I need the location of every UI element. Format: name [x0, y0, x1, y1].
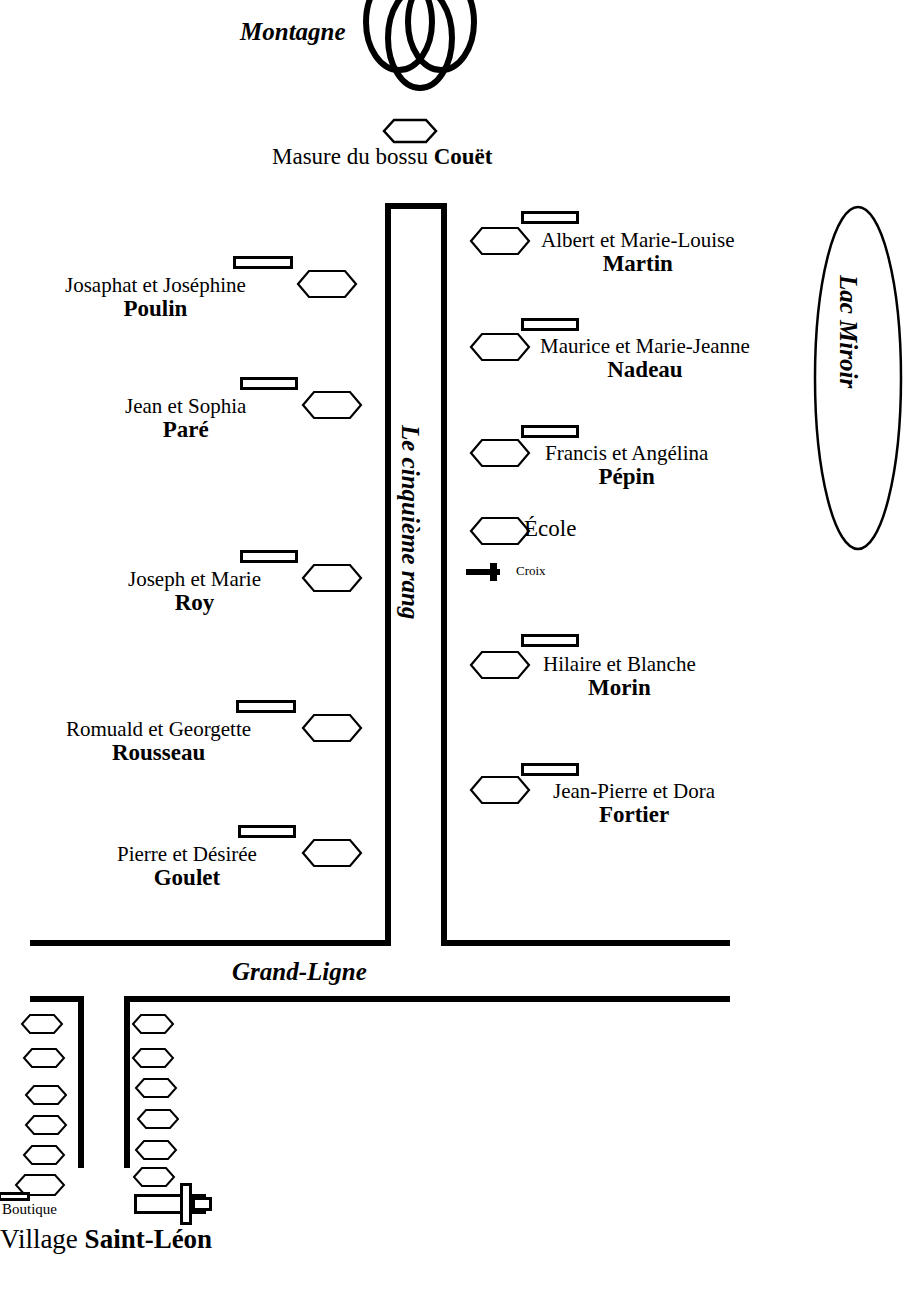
farm-given-pare: Jean et Sophia — [125, 395, 246, 418]
village-house-icon-w3 — [24, 1084, 68, 1106]
grand-ligne-label: Grand-Ligne — [232, 958, 367, 986]
rang-road-label: Le cinquième rang — [396, 425, 424, 619]
croix-label: Croix — [516, 563, 546, 579]
montagne-label: Montagne — [240, 18, 346, 46]
village-prefix: Village — [0, 1224, 85, 1254]
eglise-apse-icon — [192, 1197, 212, 1211]
farm-family-roy: Roy — [128, 591, 261, 616]
farm-given-rousseau: Romuald et Georgette — [66, 718, 251, 741]
croix-icon — [466, 561, 510, 583]
boutique-label: Boutique — [2, 1201, 57, 1218]
farm-family-pare: Paré — [125, 418, 246, 443]
farm-house-icon-pare — [301, 390, 363, 420]
farm-given-fortier: Jean-Pierre et Dora — [553, 780, 715, 803]
farm-given-nadeau: Maurice et Marie-Jeanne — [540, 335, 750, 358]
farm-given-poulin: Josaphat et Joséphine — [65, 274, 246, 297]
boutique-icon — [0, 1192, 30, 1201]
farm-label-pepin: Francis et Angélina Pépin — [545, 442, 708, 490]
grand-ligne-lower-rail-west-stub — [30, 996, 84, 1002]
village-house-icon-w1 — [20, 1013, 64, 1035]
farm-label-pare: Jean et Sophia Paré — [125, 395, 246, 443]
farm-label-fortier: Jean-Pierre et Dora Fortier — [553, 780, 715, 828]
eglise-tower-icon — [180, 1183, 192, 1225]
masure-family: Couët — [434, 144, 493, 169]
ecole-house-icon — [469, 516, 531, 546]
village-street-west-rail — [78, 996, 84, 1168]
masure-label: Masure du bossu Couët — [272, 144, 492, 170]
rang-road-left-rail — [385, 203, 391, 945]
farm-given-roy: Joseph et Marie — [128, 568, 261, 591]
village-house-icon-e4 — [136, 1108, 180, 1130]
rang-road-cap — [385, 203, 447, 209]
farm-house-icon-rousseau — [301, 713, 363, 743]
farm-label-poulin: Josaphat et Joséphine Poulin — [65, 274, 246, 322]
farm-family-nadeau: Nadeau — [540, 358, 750, 383]
farm-given-pepin: Francis et Angélina — [545, 442, 708, 465]
farm-house-icon-roy — [301, 563, 363, 593]
farm-given-goulet: Pierre et Désirée — [117, 843, 257, 866]
village-house-icon-e6 — [132, 1166, 176, 1188]
village-house-icon-e5 — [134, 1139, 178, 1161]
farm-house-icon-fortier — [469, 775, 531, 805]
farm-barn-icon-nadeau — [521, 318, 579, 331]
farm-family-fortier: Fortier — [553, 803, 715, 828]
ecole-label: École — [524, 516, 576, 542]
farm-family-poulin: Poulin — [65, 297, 246, 322]
village-house-icon-w4 — [24, 1114, 68, 1136]
masure-prefix: Masure du bossu — [272, 144, 434, 169]
farm-barn-icon-morin — [521, 634, 579, 647]
village-name: Saint-Léon — [85, 1224, 213, 1254]
farm-label-goulet: Pierre et Désirée Goulet — [117, 843, 257, 891]
masure-house-icon — [382, 118, 438, 144]
farm-barn-icon-pare — [240, 377, 298, 390]
village-house-icon-e2 — [131, 1047, 175, 1069]
farm-barn-icon-poulin — [233, 256, 293, 269]
lac-miroir-label: Lac Miroir — [834, 275, 862, 388]
village-house-icon-e1 — [131, 1013, 175, 1035]
farm-given-martin: Albert et Marie-Louise — [541, 229, 735, 252]
village-house-icon-w5 — [22, 1144, 66, 1166]
village-house-icon-w2 — [22, 1047, 66, 1069]
farm-barn-icon-fortier — [521, 763, 579, 776]
farm-family-rousseau: Rousseau — [66, 741, 251, 766]
village-house-icon-e3 — [134, 1077, 178, 1099]
map-canvas: Montagne Masure du bossu Couët Lac Miroi… — [0, 0, 907, 1292]
farm-house-icon-nadeau — [469, 332, 531, 362]
farm-family-martin: Martin — [541, 252, 735, 277]
montagne-icon — [355, 0, 485, 107]
farm-label-rousseau: Romuald et Georgette Rousseau — [66, 718, 251, 766]
farm-barn-icon-rousseau — [236, 700, 296, 713]
farm-house-icon-morin — [469, 650, 531, 680]
grand-ligne-upper-rail-east — [441, 940, 730, 946]
village-street-east-rail — [124, 996, 130, 1168]
farm-label-martin: Albert et Marie-Louise Martin — [541, 229, 735, 277]
farm-house-icon-poulin — [296, 269, 358, 299]
rang-road-right-rail — [441, 203, 447, 945]
farm-barn-icon-roy — [240, 550, 298, 563]
farm-house-icon-martin — [469, 226, 531, 256]
farm-label-roy: Joseph et Marie Roy — [128, 568, 261, 616]
farm-given-morin: Hilaire et Blanche — [543, 653, 696, 676]
village-label: Village Saint-Léon — [0, 1224, 212, 1255]
farm-house-icon-goulet — [301, 838, 363, 868]
farm-barn-icon-martin — [521, 211, 579, 224]
farm-barn-icon-goulet — [238, 825, 296, 838]
grand-ligne-lower-rail-east — [124, 996, 730, 1002]
farm-label-nadeau: Maurice et Marie-Jeanne Nadeau — [540, 335, 750, 383]
farm-family-morin: Morin — [543, 676, 696, 701]
farm-family-goulet: Goulet — [117, 866, 257, 891]
farm-family-pepin: Pépin — [545, 465, 708, 490]
farm-house-icon-pepin — [469, 438, 531, 468]
farm-label-morin: Hilaire et Blanche Morin — [543, 653, 696, 701]
grand-ligne-upper-rail-west — [30, 940, 391, 946]
farm-barn-icon-pepin — [521, 425, 579, 438]
